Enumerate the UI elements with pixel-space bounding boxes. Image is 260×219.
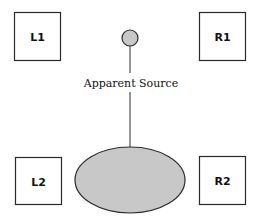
apparent-source-diagram: L1 R1 L2 R2 Apparent Source: [0, 0, 260, 219]
speaker-r1: R1: [200, 13, 246, 61]
speaker-r2: R2: [200, 157, 246, 205]
speaker-l2-label: L2: [31, 176, 46, 189]
apparent-source-circle: [122, 30, 138, 46]
speaker-l1-label: L1: [30, 31, 45, 44]
speaker-l1: L1: [15, 13, 61, 61]
speaker-l2: L2: [16, 158, 62, 205]
speaker-r2-label: R2: [214, 175, 230, 188]
apparent-source-label: Apparent Source: [83, 77, 179, 90]
speaker-r1-label: R1: [214, 31, 230, 44]
listener-area-ellipse: [75, 147, 185, 213]
